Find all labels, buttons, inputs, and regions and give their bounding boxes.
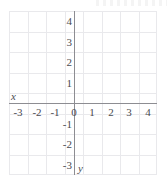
gridline-horizontal	[9, 52, 157, 53]
y-tick-label: 2	[52, 57, 72, 68]
coordinate-grid-figure: -3-2-101234 4321-1-2-3 x y	[0, 0, 167, 180]
y-axis-label: y	[78, 163, 83, 174]
x-axis-line	[9, 103, 157, 104]
gridline-horizontal	[9, 134, 157, 135]
gridline-horizontal	[9, 73, 157, 74]
y-axis-line	[74, 11, 75, 175]
gridline-horizontal	[9, 155, 157, 156]
y-tick-label: -1	[52, 119, 72, 130]
y-tick-label: 1	[52, 78, 72, 89]
x-tick-label: -1	[45, 107, 65, 118]
gridline-horizontal	[9, 11, 157, 12]
y-tick-label: -3	[52, 160, 72, 171]
x-tick-label: -3	[8, 107, 28, 118]
y-tick-label: 3	[52, 37, 72, 48]
gridlines-group	[9, 11, 157, 175]
gridline-horizontal	[9, 93, 157, 94]
x-tick-label: 4	[138, 107, 158, 118]
x-tick-label: 1	[82, 107, 102, 118]
x-tick-label: 0	[64, 107, 84, 118]
y-tick-label: 4	[52, 16, 72, 27]
y-tick-label: -2	[52, 139, 72, 150]
plot-area: -3-2-101234 4321-1-2-3 x y	[9, 11, 157, 175]
x-tick-label: -2	[27, 107, 47, 118]
gridline-horizontal	[9, 32, 157, 33]
top-edge-text-artifact	[96, 0, 167, 6]
x-axis-label: x	[11, 91, 16, 102]
x-tick-label: 2	[101, 107, 121, 118]
gridline-horizontal	[9, 174, 157, 175]
x-tick-label: 3	[119, 107, 139, 118]
